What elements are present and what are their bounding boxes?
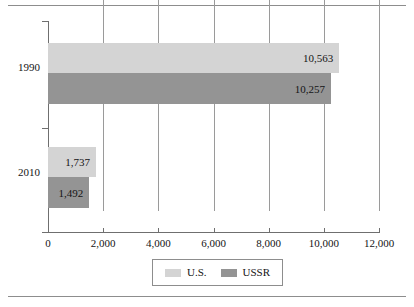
bar-us-1990[interactable]: 10,563 — [48, 43, 339, 73]
legend-label-ussr: USSR — [243, 267, 271, 278]
bar-label-ussr-2010: 1,492 — [58, 187, 83, 198]
x-tick-mark-4000 — [158, 228, 159, 233]
x-tick-label-6000: 6,000 — [201, 238, 226, 249]
x-tick-label-2000: 2,000 — [91, 238, 116, 249]
top-divider-rule — [8, 5, 406, 6]
x-tick-label-12000: 12,000 — [364, 238, 394, 249]
x-tick-mark-12000 — [379, 228, 380, 233]
category-label-2010: 2010 — [0, 167, 40, 178]
bar-label-us-2010: 1,737 — [65, 157, 90, 168]
legend-item-ussr[interactable]: USSR — [221, 267, 271, 278]
x-tick-mark-8000 — [269, 228, 270, 233]
gridline-12000 — [379, 0, 380, 211]
category-label-1990: 1990 — [0, 62, 40, 73]
legend-label-us: U.S. — [187, 267, 207, 278]
legend-swatch-ussr-icon — [221, 269, 237, 277]
bar-label-ussr-1990: 10,257 — [295, 83, 325, 94]
bottom-divider-rule — [8, 296, 406, 297]
plot-area: 10,563 10,257 1,737 1,492 — [48, 21, 379, 232]
x-tick-mark-2000 — [103, 228, 104, 233]
bar-chart-figure: 10,563 10,257 1,737 1,492 1990 2010 02,0… — [0, 0, 414, 307]
x-tick-mark-6000 — [214, 228, 215, 233]
x-tick-mark-10000 — [324, 228, 325, 233]
chart-legend: U.S. USSR — [152, 259, 283, 286]
bar-ussr-1990[interactable]: 10,257 — [48, 73, 331, 104]
x-tick-mark-0 — [48, 228, 49, 233]
bar-ussr-2010[interactable]: 1,492 — [48, 177, 89, 208]
x-tick-label-8000: 8,000 — [256, 238, 281, 249]
x-tick-label-10000: 10,000 — [309, 238, 339, 249]
legend-swatch-us-icon — [165, 269, 181, 277]
legend-item-us[interactable]: U.S. — [165, 267, 207, 278]
x-tick-label-0: 0 — [45, 238, 51, 249]
bar-us-2010[interactable]: 1,737 — [48, 147, 96, 177]
bar-label-us-1990: 10,563 — [303, 53, 333, 64]
x-tick-label-4000: 4,000 — [146, 238, 171, 249]
